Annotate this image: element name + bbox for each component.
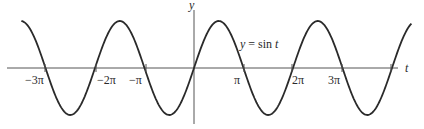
tick-label-2pi: 2π bbox=[292, 73, 304, 87]
sine-graph: y t −3π −2π −π π 2π 3π y = sin t bbox=[0, 0, 424, 129]
y-axis-label: y bbox=[188, 0, 195, 12]
tick-label-neg2pi: −2π bbox=[97, 73, 116, 87]
tick-label-negpi: −π bbox=[129, 73, 142, 87]
tick-label-neg3pi: −3π bbox=[25, 73, 44, 87]
equation-label: y = sin t bbox=[239, 37, 279, 51]
tick-label-3pi: 3π bbox=[328, 73, 340, 87]
t-axis-label: t bbox=[405, 61, 409, 75]
tick-label-pi: π bbox=[234, 73, 240, 87]
